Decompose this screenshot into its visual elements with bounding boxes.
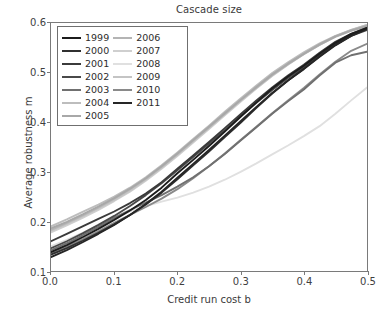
x-tick-label: 0.5 <box>348 276 388 287</box>
y-tick-label: 0.4 <box>2 117 46 128</box>
legend-line-swatch <box>113 37 132 39</box>
legend-line-swatch <box>62 89 81 91</box>
legend-item-1999[interactable]: 1999 <box>62 31 109 44</box>
x-tick-mark <box>368 271 369 275</box>
y-tick-mark <box>47 172 51 173</box>
legend-item-2010[interactable]: 2010 <box>113 83 160 96</box>
legend-item-2009[interactable]: 2009 <box>113 70 160 83</box>
y-tick-mark <box>47 72 51 73</box>
x-tick-label: 0.4 <box>284 276 324 287</box>
y-tick-label: 0.2 <box>2 217 46 228</box>
legend-line-swatch <box>113 63 132 65</box>
legend-item-label: 2007 <box>136 44 160 57</box>
legend-line-swatch <box>113 102 132 104</box>
x-tick-mark <box>50 271 51 275</box>
legend-item-2006[interactable]: 2006 <box>113 31 160 44</box>
legend-line-swatch <box>113 89 132 91</box>
legend-item-label: 2010 <box>136 83 160 96</box>
legend-item-label: 2011 <box>136 96 160 109</box>
legend-item-2008[interactable]: 2008 <box>113 57 160 70</box>
legend-column-left: 1999200020012002200320042005 <box>62 31 109 122</box>
chart-legend: 1999200020012002200320042005 20062007200… <box>57 26 188 126</box>
legend-item-label: 1999 <box>85 31 109 44</box>
legend-item-2001[interactable]: 2001 <box>62 57 109 70</box>
legend-item-2003[interactable]: 2003 <box>62 83 109 96</box>
legend-item-2011[interactable]: 2011 <box>113 96 160 109</box>
x-tick-label: 0.2 <box>157 276 197 287</box>
y-tick-label: 0.5 <box>2 67 46 78</box>
legend-line-swatch <box>113 76 132 78</box>
chart-title: Cascade size <box>50 4 368 15</box>
legend-item-label: 2006 <box>136 31 160 44</box>
legend-line-swatch <box>62 63 81 65</box>
x-axis-tick-labels: 0.00.10.20.30.40.5 <box>0 276 388 292</box>
legend-item-label: 2005 <box>85 109 109 122</box>
x-tick-mark <box>304 271 305 275</box>
y-tick-label: 0.3 <box>2 167 46 178</box>
y-tick-mark <box>47 222 51 223</box>
x-axis-label: Credit run cost b <box>50 294 368 305</box>
legend-item-label: 2002 <box>85 70 109 83</box>
x-tick-label: 0.0 <box>30 276 70 287</box>
legend-line-swatch <box>62 102 81 104</box>
y-tick-mark <box>47 122 51 123</box>
legend-item-label: 2000 <box>85 44 109 57</box>
legend-line-swatch <box>62 37 81 39</box>
x-tick-mark <box>241 271 242 275</box>
x-tick-label: 0.3 <box>221 276 261 287</box>
legend-line-swatch <box>113 50 132 52</box>
legend-item-2002[interactable]: 2002 <box>62 70 109 83</box>
legend-item-label: 2003 <box>85 83 109 96</box>
legend-line-swatch <box>62 76 81 78</box>
legend-item-2007[interactable]: 2007 <box>113 44 160 57</box>
legend-item-2000[interactable]: 2000 <box>62 44 109 57</box>
legend-item-label: 2001 <box>85 57 109 70</box>
x-tick-mark <box>114 271 115 275</box>
legend-item-label: 2009 <box>136 70 160 83</box>
x-tick-mark <box>177 271 178 275</box>
legend-line-swatch <box>62 50 81 52</box>
y-tick-mark <box>47 22 51 23</box>
legend-column-right: 200620072008200920102011 <box>113 31 160 122</box>
legend-item-label: 2008 <box>136 57 160 70</box>
legend-item-2004[interactable]: 2004 <box>62 96 109 109</box>
y-tick-label: 0.6 <box>2 17 46 28</box>
legend-item-2005[interactable]: 2005 <box>62 109 109 122</box>
y-axis-tick-labels: 0.10.20.30.40.50.6 <box>0 0 46 318</box>
legend-line-swatch <box>62 115 81 117</box>
x-tick-label: 0.1 <box>94 276 134 287</box>
legend-item-label: 2004 <box>85 96 109 109</box>
chart-figure: Cascade size Average robustness m Credit… <box>0 0 388 318</box>
